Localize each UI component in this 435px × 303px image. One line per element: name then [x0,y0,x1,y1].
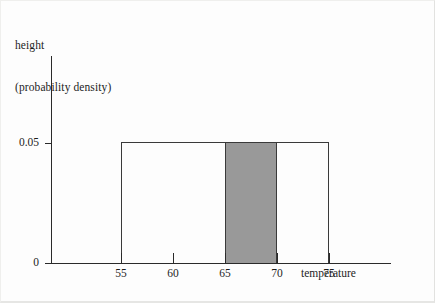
x-tick-label-55: 55 [101,267,141,279]
y-tick-mark-005 [45,143,52,144]
x-tick-mark-75 [329,253,330,264]
plot-area: 55 60 65 70 75 0.05 0 temperature [1,1,435,303]
y-tick-label-0: 0 [33,256,39,268]
x-axis-line [51,263,391,264]
y-tick-label-005-wrap: 0.05 [41,136,42,150]
y-tick-mark-0 [45,263,52,264]
x-tick-label-70: 70 [257,267,297,279]
y-tick-label-005: 0.05 [19,136,39,148]
x-axis-label: temperature [301,267,356,279]
x-tick-mark-65 [225,253,226,264]
shaded-probability-region [225,143,277,263]
y-tick-label-0-wrap: 0 [41,256,42,270]
y-axis-line [51,56,52,264]
x-tick-mark-70 [277,253,278,264]
x-tick-label-65: 65 [205,267,245,279]
x-tick-label-60: 60 [153,267,193,279]
chart-figure: height (probability density) 55 60 65 70… [0,0,435,303]
x-tick-mark-60 [173,253,174,264]
x-tick-mark-55 [121,253,122,264]
